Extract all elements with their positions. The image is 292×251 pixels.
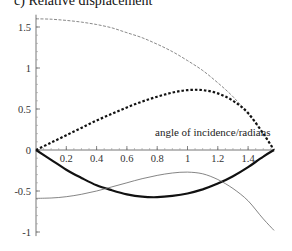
thick-dotted-series-line [36,90,274,150]
y-tick-label: -1 [22,227,31,238]
x-tick-label: 0.8 [151,153,164,164]
x-tick-label: 0.2 [60,153,73,164]
series-group [36,19,274,231]
x-tick-label: 1.2 [211,153,224,164]
x-tick-label: 0.6 [120,153,133,164]
y-tick-label: 0.5 [18,104,31,115]
thin-solid-series-line [36,172,274,230]
x-tick-label: 1 [185,153,190,164]
chart-plot-area: -1-0.500.511.50.20.40.60.811.21.4 angle … [0,0,292,251]
y-tick-label: -0.5 [14,186,31,197]
y-tick-label: 1.5 [18,22,31,33]
x-tick-label: 0.4 [90,153,104,164]
x-axis-label: angle of incidence/radians [155,126,270,138]
y-tick-label: 0 [26,145,31,156]
y-tick-label: 1 [26,63,31,74]
